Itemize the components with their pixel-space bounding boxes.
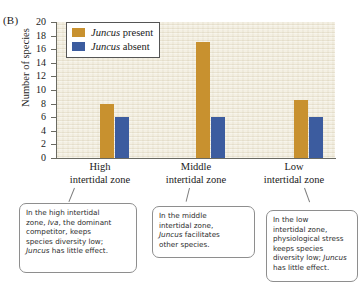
callout-line: intertidal zone, <box>159 221 249 231</box>
y-tick-label: 20 <box>20 17 46 27</box>
bar-middle-present <box>196 42 210 158</box>
y-axis-line <box>56 22 57 159</box>
callout-line: has little effect. <box>273 263 352 273</box>
callout-low-intertidal: In the low intertidal zone, physiologica… <box>266 210 358 282</box>
y-tick-mark <box>51 36 56 37</box>
legend: Juncus present Juncus absent <box>66 22 160 58</box>
callout-line: In the high intertidal <box>26 208 131 218</box>
y-tick-mark <box>51 144 56 145</box>
category-line-1: Low <box>236 161 352 174</box>
x-axis-line <box>56 158 336 159</box>
y-tick-mark <box>51 131 56 132</box>
legend-label-absent: Juncus absent <box>91 41 150 52</box>
callout-line: species diversity low; <box>26 237 131 247</box>
y-tick-label: 8 <box>20 99 46 109</box>
y-tick-mark <box>51 117 56 118</box>
callout-middle-intertidal: In the middle intertidal zone, Juncus fa… <box>152 206 255 258</box>
y-tick-mark <box>51 49 56 50</box>
leader-line-low <box>304 188 310 202</box>
legend-species-name-absent: Juncus <box>91 41 120 52</box>
y-tick-label: 16 <box>20 44 46 54</box>
callout-line: intertidal zone, <box>273 225 352 235</box>
leader-line-high <box>68 188 75 202</box>
legend-swatch-absent <box>72 42 85 51</box>
x-axis-category-low: Low intertidal zone <box>236 161 352 186</box>
callout-line: other species. <box>159 240 249 250</box>
y-tick-label: 4 <box>20 126 46 136</box>
callout-line: Juncus has little effect. <box>26 246 131 256</box>
y-tick-label: 18 <box>20 31 46 41</box>
legend-species-name-present: Juncus <box>91 27 120 38</box>
legend-label-present: Juncus present <box>91 27 153 38</box>
callout-line: competitor, keeps <box>26 227 131 237</box>
y-tick-mark <box>51 158 56 159</box>
y-tick-mark <box>51 104 56 105</box>
callout-high-intertidal: In the high intertidal zone, Iva, the do… <box>19 203 137 273</box>
callout-line: zone, Iva, the dominant <box>26 218 131 228</box>
y-tick-mark <box>51 90 56 91</box>
legend-item-juncus-absent: Juncus absent <box>72 40 153 53</box>
bar-middle-absent <box>211 117 225 158</box>
legend-label-absent-rest: absent <box>120 41 149 52</box>
y-tick-label: 14 <box>20 58 46 68</box>
y-tick-mark <box>51 63 56 64</box>
category-line-2: intertidal zone <box>236 174 352 187</box>
y-tick-mark <box>51 76 56 77</box>
leader-line-middle <box>186 188 190 202</box>
callout-line: physiological stress <box>273 234 352 244</box>
figure-panel-b: (B) Number of species 02468101214161820 … <box>0 0 359 286</box>
callout-line: In the low <box>273 215 352 225</box>
legend-label-present-rest: present <box>120 27 153 38</box>
y-tick-label: 6 <box>20 112 46 122</box>
callout-line: In the middle <box>159 211 249 221</box>
bar-low-absent <box>309 117 323 158</box>
bar-low-present <box>294 100 308 158</box>
bar-high-absent <box>115 117 129 158</box>
panel-letter: (B) <box>3 14 18 26</box>
legend-swatch-present <box>72 28 85 37</box>
callout-line: diversity low; Juncus <box>273 253 352 263</box>
y-tick-label: 10 <box>20 85 46 95</box>
y-tick-label: 12 <box>20 71 46 81</box>
legend-item-juncus-present: Juncus present <box>72 26 153 39</box>
y-tick-label: 2 <box>20 139 46 149</box>
callout-line: Juncus facilitates <box>159 230 249 240</box>
y-tick-mark <box>51 22 56 23</box>
bar-high-present <box>100 104 114 158</box>
callout-line: keeps species <box>273 244 352 254</box>
